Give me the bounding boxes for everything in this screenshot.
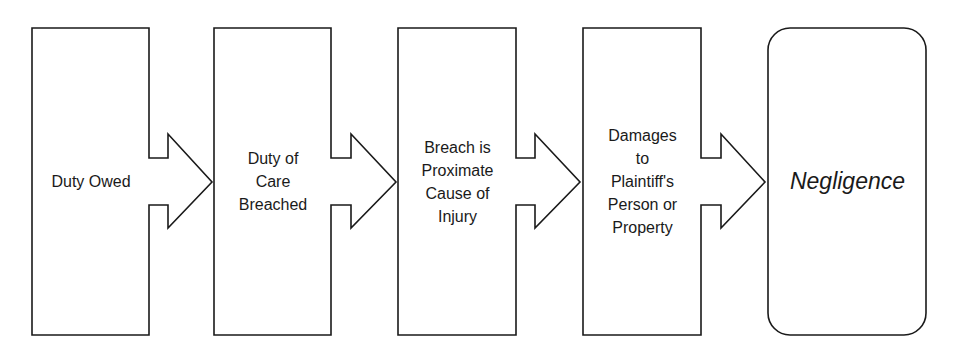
step-1-label: Duty Owed (33, 28, 149, 335)
step-3-label: Breach is Proximate Cause of Injury (399, 28, 516, 335)
step-2-label: Duty of Care Breached (215, 28, 331, 335)
step-2-text: Duty of Care Breached (239, 147, 308, 216)
step-4-text: Damages to Plaintiff's Person or Propert… (608, 124, 677, 239)
result-label: Negligence (769, 28, 926, 335)
step-4-label: Damages to Plaintiff's Person or Propert… (584, 28, 701, 335)
step-3-text: Breach is Proximate Cause of Injury (421, 136, 493, 228)
step-1-text: Duty Owed (51, 170, 130, 193)
result-text: Negligence (790, 170, 905, 193)
